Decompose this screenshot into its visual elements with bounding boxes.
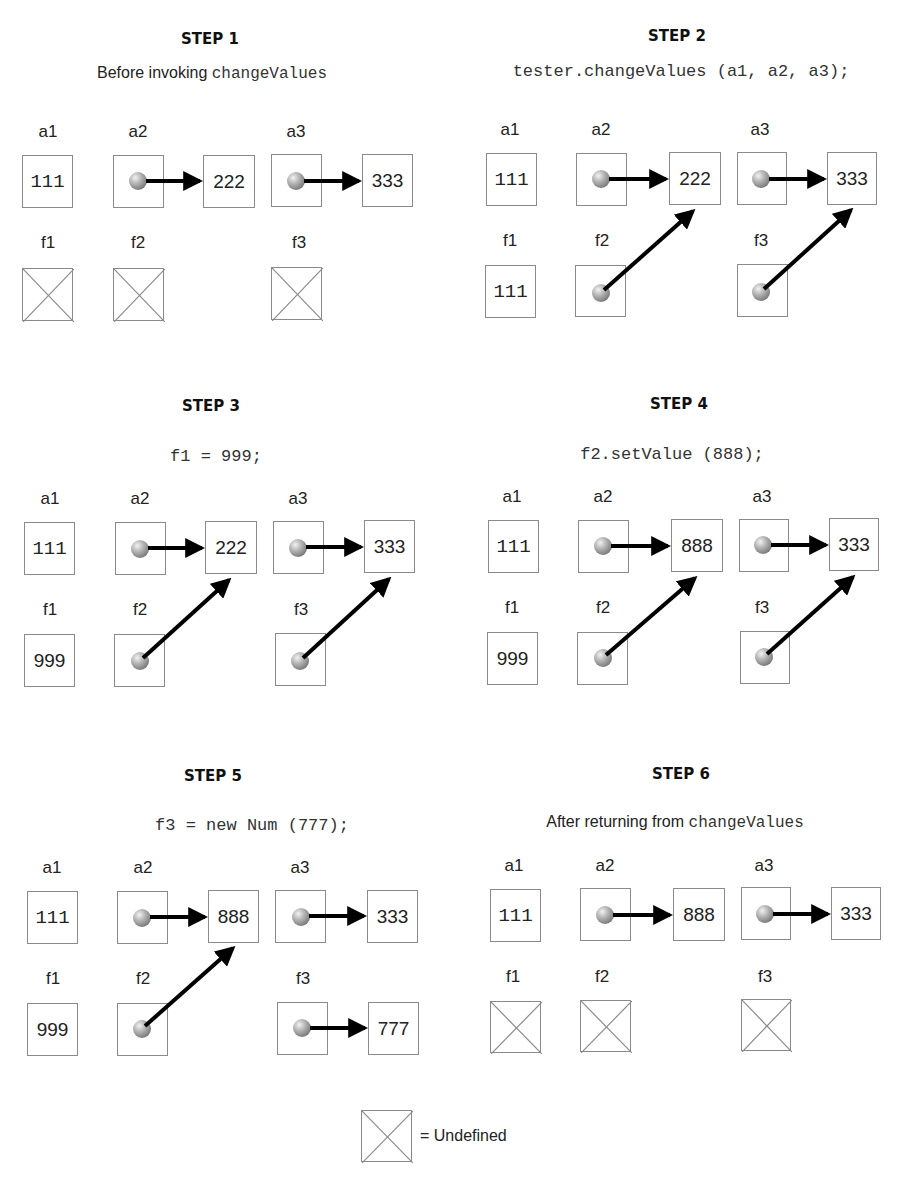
var-label-a3: a3	[755, 856, 774, 876]
a2-target-box: 888	[673, 888, 725, 941]
a1-box: 111	[22, 155, 73, 208]
var-label-a3: a3	[753, 487, 772, 507]
reference-ball-icon	[129, 172, 147, 190]
f3-target-box: 777	[368, 1002, 419, 1055]
a3-target-box: 333	[362, 154, 413, 207]
caption-code: changeValues	[689, 814, 804, 832]
cross-icon	[272, 268, 323, 321]
var-label-f3: f3	[294, 600, 308, 620]
reference-ball-icon	[291, 652, 309, 670]
reference-ball-icon	[133, 909, 151, 927]
a1-box: 111	[27, 891, 78, 944]
reference-ball-icon	[594, 537, 612, 555]
a2-target-box: 888	[671, 519, 723, 572]
a2-target-box: 222	[669, 152, 721, 205]
var-label-f2: f2	[131, 233, 145, 253]
var-label-a2: a2	[596, 856, 615, 876]
cross-icon	[581, 1001, 632, 1053]
a1-box: 111	[488, 520, 539, 573]
code-statement: f2.setValue (888);	[580, 445, 764, 464]
var-label-a1: a1	[503, 487, 522, 507]
f2-undefined-box	[580, 1000, 631, 1052]
var-label-f2: f2	[133, 600, 147, 620]
reference-ball-icon	[592, 170, 610, 188]
step-caption: After returning from changeValues	[546, 813, 804, 832]
step-title: STEP 5	[184, 767, 242, 785]
reference-ball-icon	[752, 283, 770, 301]
var-label-f1: f1	[41, 233, 55, 253]
caption-text: Before invoking	[97, 64, 212, 81]
a3-target-box: 333	[827, 152, 877, 205]
var-label-f3: f3	[296, 969, 310, 989]
cross-icon	[114, 269, 165, 322]
legend-undefined-box	[361, 1110, 412, 1162]
reference-ball-icon	[592, 284, 610, 302]
a3-target-box: 333	[364, 520, 415, 573]
var-label-f3: f3	[754, 231, 768, 251]
var-label-a3: a3	[751, 120, 770, 140]
reference-ball-icon	[131, 652, 149, 670]
reference-ball-icon	[287, 172, 305, 190]
cross-icon	[23, 269, 74, 322]
a3-target-box: 333	[831, 887, 881, 940]
a3-target-box: 333	[367, 890, 418, 943]
a2-target-box: 222	[203, 155, 255, 208]
var-label-a3: a3	[287, 122, 306, 142]
var-label-a3: a3	[289, 489, 308, 509]
code-statement: f3 = new Num (777);	[155, 816, 349, 835]
f1-box: 999	[24, 634, 75, 687]
f1-undefined-box	[22, 268, 73, 321]
f1-undefined-box	[490, 1001, 541, 1053]
var-label-a2: a2	[131, 489, 150, 509]
f2-undefined-box	[113, 268, 164, 321]
f3-undefined-box	[271, 267, 322, 320]
var-label-a1: a1	[39, 122, 58, 142]
step-caption: Before invoking changeValues	[97, 64, 327, 83]
var-label-f2: f2	[136, 969, 150, 989]
a2-target-box: 222	[205, 521, 257, 574]
f1-box: 999	[27, 1003, 78, 1056]
a1-box: 111	[490, 889, 541, 942]
step-title: STEP 1	[181, 30, 239, 48]
var-label-f2: f2	[595, 967, 609, 987]
f3-undefined-box	[741, 999, 791, 1051]
step-title: STEP 2	[648, 27, 706, 45]
var-label-a2: a2	[129, 122, 148, 142]
reference-ball-icon	[756, 905, 774, 923]
var-label-f1: f1	[506, 967, 520, 987]
legend-label: = Undefined	[420, 1127, 507, 1145]
var-label-f3: f3	[758, 967, 772, 987]
var-label-a3: a3	[291, 858, 310, 878]
a2-target-box: 888	[208, 890, 259, 943]
reference-ball-icon	[755, 648, 773, 666]
var-label-f1: f1	[505, 598, 519, 618]
cross-icon	[491, 1002, 542, 1054]
var-label-a1: a1	[501, 120, 520, 140]
a3-target-box: 333	[829, 518, 879, 571]
var-label-a2: a2	[134, 858, 153, 878]
a1-box: 111	[486, 153, 537, 206]
f1-box: 999	[487, 632, 538, 685]
cross-icon	[362, 1111, 413, 1163]
a1-box: 111	[24, 522, 75, 575]
step-title: STEP 6	[652, 765, 710, 783]
reference-ball-icon	[293, 1019, 311, 1037]
f1-box: 111	[485, 265, 536, 318]
var-label-f2: f2	[596, 598, 610, 618]
reference-ball-icon	[754, 536, 772, 554]
reference-ball-icon	[594, 649, 612, 667]
code-statement: tester.changeValues (a1, a2, a3);	[513, 62, 850, 81]
code-statement: f1 = 999;	[170, 447, 262, 466]
var-label-f1: f1	[46, 969, 60, 989]
var-label-f1: f1	[43, 600, 57, 620]
var-label-a2: a2	[592, 120, 611, 140]
step-title: STEP 4	[650, 395, 708, 413]
caption-code: changeValues	[212, 65, 327, 83]
reference-ball-icon	[292, 908, 310, 926]
var-label-a1: a1	[43, 858, 62, 878]
reference-ball-icon	[752, 170, 770, 188]
cross-icon	[742, 1000, 792, 1052]
reference-ball-icon	[133, 1020, 151, 1038]
var-label-f3: f3	[292, 233, 306, 253]
reference-ball-icon	[131, 540, 149, 558]
